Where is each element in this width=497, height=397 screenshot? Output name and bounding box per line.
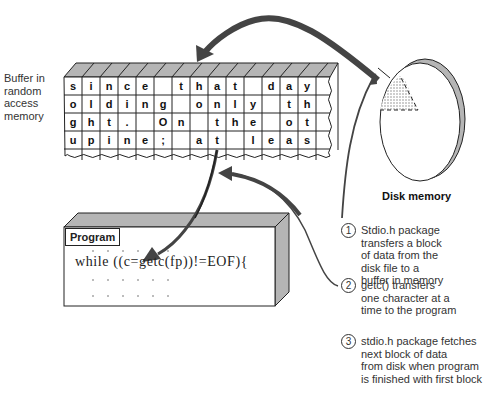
buffer-cell: . <box>118 113 136 131</box>
buffer-cell: u <box>64 131 82 149</box>
buffer-cell: O <box>154 113 172 131</box>
buffer-cell: s <box>64 77 82 95</box>
buffer-cell: ; <box>154 131 172 149</box>
buffer-cell <box>172 131 190 149</box>
buffer-grid-bevel <box>64 63 338 77</box>
buffer-cell: h <box>226 113 244 131</box>
buffer-cell: n <box>172 113 190 131</box>
step-3-text: stdio.h package fetches next block of da… <box>361 335 482 385</box>
buffer-cell: e <box>136 131 154 149</box>
step-2-number: 2 <box>341 278 356 293</box>
buffer-cell: h <box>82 113 100 131</box>
buffer-cell: d <box>262 77 280 95</box>
buffer-cell: i <box>118 95 136 113</box>
buffer-cell <box>172 95 190 113</box>
buffer-cell: y <box>244 95 262 113</box>
disk-label: Disk memory <box>382 190 451 203</box>
program-code: while ((c=getc(fp))!=EOF){ <box>75 254 248 270</box>
buffer-cell: t <box>298 113 316 131</box>
buffer-cell: l <box>226 95 244 113</box>
buffer-cell: t <box>226 77 244 95</box>
buffer-cell: e <box>262 131 280 149</box>
step-1-text: Stdio.h package transfers a block of dat… <box>361 224 443 287</box>
buffer-cell: a <box>190 131 208 149</box>
buffer-cell: l <box>244 131 262 149</box>
buffer-cell: l <box>82 95 100 113</box>
buffer-cell: e <box>244 113 262 131</box>
buffer-cell: d <box>100 95 118 113</box>
buffer-cell: p <box>82 131 100 149</box>
buffer-cell: o <box>280 113 298 131</box>
buffer-cell: t <box>280 95 298 113</box>
buffer-cell: g <box>64 113 82 131</box>
step-3-number: 3 <box>341 334 356 349</box>
buffer-cell <box>190 113 208 131</box>
buffer-cell: t <box>208 113 226 131</box>
buffer-cell: c <box>118 77 136 95</box>
buffer-cell: i <box>82 77 100 95</box>
buffer-cell: n <box>100 77 118 95</box>
buffer-cell <box>244 77 262 95</box>
buffer-cell: h <box>190 77 208 95</box>
buffer-cell: a <box>280 77 298 95</box>
buffer-cell: y <box>298 77 316 95</box>
buffer-cell: e <box>136 77 154 95</box>
buffer-cell: t <box>172 77 190 95</box>
buffer-cell <box>226 131 244 149</box>
buffer-cell: g <box>154 95 172 113</box>
step1-leader <box>342 78 373 218</box>
step-1-number: 1 <box>341 223 356 238</box>
program-title: Program <box>65 228 120 246</box>
buffer-cell <box>262 95 280 113</box>
buffer-cell: t <box>100 113 118 131</box>
buffer-cell: a <box>208 77 226 95</box>
buffer-cell: a <box>280 131 298 149</box>
step-2-text: getc() transfers one character at a time… <box>361 279 456 317</box>
buffer-cell: n <box>118 131 136 149</box>
step-3: 3 stdio.h package fetches next block of … <box>341 335 482 385</box>
buffer-cell <box>136 113 154 131</box>
buffer-label: Buffer in random access memory <box>4 72 62 122</box>
buffer-cell: h <box>298 95 316 113</box>
disk-icon <box>380 59 465 181</box>
buffer-cell: t <box>208 131 226 149</box>
buffer-cell: n <box>136 95 154 113</box>
buffer-cell <box>262 113 280 131</box>
buffer-cell: o <box>190 95 208 113</box>
buffer-cell: i <box>100 131 118 149</box>
buffer-cell: o <box>64 95 82 113</box>
step-1: 1 Stdio.h package transfers a block of d… <box>341 224 443 287</box>
step-2: 2 getc() transfers one character at a ti… <box>341 279 456 317</box>
buffer-cell: s <box>298 131 316 149</box>
buffer-cell: n <box>208 95 226 113</box>
buffer-cell <box>154 77 172 95</box>
